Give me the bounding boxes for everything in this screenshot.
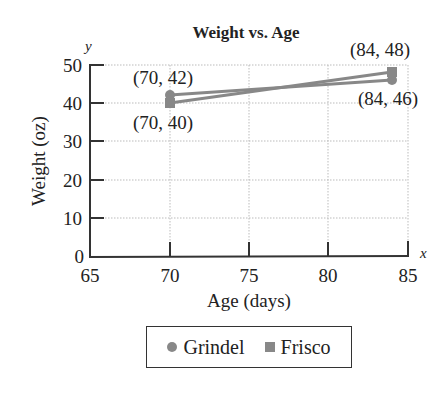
annotation-70-42: (70, 42)	[133, 67, 193, 89]
chart-title: Weight vs. Age	[192, 23, 300, 42]
svg-text:85: 85	[399, 265, 418, 286]
svg-text:65: 65	[81, 265, 100, 286]
svg-text:0: 0	[75, 246, 85, 267]
legend: Grindel Frisco	[146, 326, 352, 368]
svg-text:80: 80	[319, 265, 338, 286]
y-axis-label: Weight (oz)	[28, 116, 50, 206]
x-axis-label: Age (days)	[207, 290, 291, 312]
svg-text:10: 10	[63, 208, 82, 229]
svg-text:30: 30	[63, 131, 82, 152]
x-axis-variable: x	[419, 245, 427, 261]
svg-text:70: 70	[161, 265, 180, 286]
square-marker-icon	[265, 342, 275, 352]
svg-text:20: 20	[63, 170, 82, 191]
circle-marker-icon	[167, 342, 177, 352]
y-axis-variable: y	[83, 38, 92, 54]
svg-text:50: 50	[63, 55, 82, 76]
annotation-84-48: (84, 48)	[350, 39, 410, 61]
x-tick-labels: 65 70 75 80 85	[81, 265, 418, 286]
svg-text:40: 40	[63, 93, 82, 114]
svg-text:75: 75	[240, 265, 259, 286]
legend-item-grindel: Grindel	[167, 336, 244, 359]
y-tick-labels: 50 40 30 20 10 0	[63, 55, 84, 267]
legend-item-frisco: Frisco	[265, 336, 331, 359]
annotation-70-40: (70, 40)	[133, 112, 193, 134]
legend-label-frisco: Frisco	[281, 336, 331, 359]
legend-label-grindel: Grindel	[183, 336, 244, 359]
annotation-84-46: (84, 46)	[358, 88, 418, 110]
